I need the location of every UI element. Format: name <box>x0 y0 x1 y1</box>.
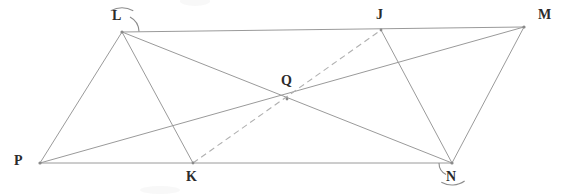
segment-L-K <box>122 32 193 163</box>
vertex-dot-L <box>120 30 123 33</box>
diagonal-L-N <box>122 32 452 163</box>
vertex-dot-M <box>522 25 525 28</box>
point-label-J: J <box>376 8 383 22</box>
geometry-figure: P L K Q J N M <box>0 0 561 194</box>
segment-N-M <box>452 27 524 163</box>
vertex-dot-K <box>192 162 195 165</box>
point-label-P: P <box>14 154 23 168</box>
vertex-dot-N <box>450 161 453 164</box>
point-label-M: M <box>538 8 551 22</box>
vertex-dot-J <box>380 29 383 32</box>
dashed-K-J <box>193 30 381 163</box>
vertex-dot-P <box>38 161 41 164</box>
point-label-L: L <box>112 9 121 23</box>
segment-L-M <box>122 27 524 32</box>
vertex-dot-Q <box>286 98 289 101</box>
point-label-Q: Q <box>281 74 292 88</box>
segments-group <box>40 27 524 163</box>
point-label-K: K <box>186 170 197 184</box>
geometry-canvas <box>0 0 561 194</box>
angle-arc-at-L-inner <box>130 17 139 31</box>
point-label-N: N <box>446 170 456 184</box>
